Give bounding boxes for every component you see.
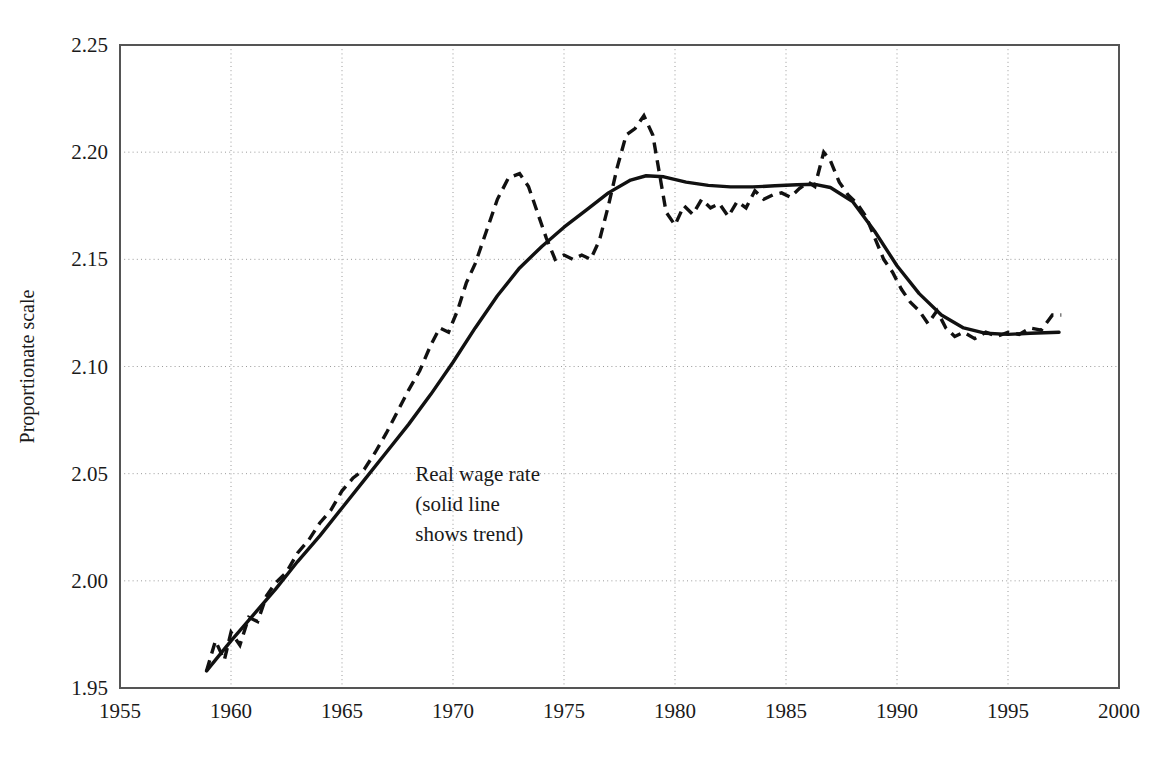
y-tick-label-2.10: 2.10 — [71, 355, 108, 379]
x-tick-label-1975: 1975 — [543, 699, 585, 723]
series-annotation-line-2: (solid line — [415, 492, 500, 516]
series-annotation-line-3: shows trend) — [415, 522, 523, 546]
x-tick-label-1965: 1965 — [321, 699, 363, 723]
y-gridlines — [120, 152, 1119, 581]
y-tick-label-2.05: 2.05 — [71, 462, 108, 486]
x-tick-label-1955: 1955 — [99, 699, 141, 723]
x-tick-label-1985: 1985 — [765, 699, 807, 723]
chart-annotations: Real wage rate(solid lineshows trend) — [415, 462, 540, 546]
x-tick-label-1990: 1990 — [876, 699, 918, 723]
series-trend-solid — [207, 176, 1059, 671]
y-tick-label-1.95: 1.95 — [71, 676, 108, 700]
x-tick-label-1980: 1980 — [654, 699, 696, 723]
y-tick-label-2.20: 2.20 — [71, 140, 108, 164]
chart-figure: 1955196019651970197519801985199019952000… — [0, 0, 1167, 762]
x-tick-label-1970: 1970 — [432, 699, 474, 723]
y-axis-tick-labels: 1.952.002.052.102.152.202.25 — [71, 33, 108, 700]
series-annotation-line-1: Real wage rate — [415, 462, 540, 486]
x-tick-label-1960: 1960 — [210, 699, 252, 723]
y-tick-label-2.00: 2.00 — [71, 569, 108, 593]
y-tick-label-2.15: 2.15 — [71, 247, 108, 271]
series-real-wage-rate-dashed — [207, 116, 1062, 671]
y-tick-label-2.25: 2.25 — [71, 33, 108, 57]
x-tick-label-2000: 2000 — [1098, 699, 1140, 723]
x-axis-tick-labels: 1955196019651970197519801985199019952000 — [99, 699, 1140, 723]
y-axis-title: Proportionate scale — [16, 289, 39, 443]
x-tick-label-1995: 1995 — [987, 699, 1029, 723]
chart-canvas: 1955196019651970197519801985199019952000… — [0, 0, 1167, 762]
